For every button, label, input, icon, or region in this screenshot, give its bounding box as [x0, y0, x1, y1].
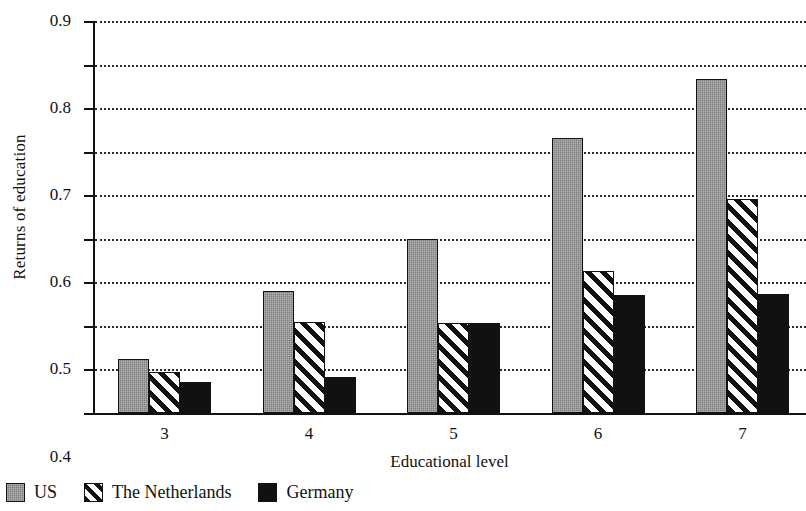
x-axis-line: [84, 413, 806, 415]
bar-group: [696, 21, 789, 413]
bar-us-level-7[interactable]: [696, 79, 727, 413]
legend-item-us[interactable]: US: [6, 482, 57, 503]
y-tick-label: 0.9: [50, 11, 71, 31]
y-axis-line: [93, 21, 95, 413]
bar-nl-level-5[interactable]: [438, 323, 469, 413]
legend-label: US: [34, 482, 57, 503]
legend-label: Germany: [286, 482, 353, 503]
y-tick-label: 0.4: [50, 447, 71, 467]
legend-swatch-nl-icon: [84, 483, 103, 502]
y-tick-mark: 0.8: [84, 65, 95, 67]
y-tick-label: 0.7: [50, 185, 71, 205]
y-tick-mark: 0.3: [84, 282, 95, 284]
bar-nl-level-4[interactable]: [294, 322, 325, 413]
x-tick-label: 3: [160, 424, 169, 444]
chart-container: Returns of education 0.00.10.20.30.40.50…: [0, 0, 806, 511]
legend-label: The Netherlands: [112, 482, 231, 503]
bar-de-level-7[interactable]: [758, 294, 789, 413]
bar-nl-level-7[interactable]: [727, 199, 758, 413]
legend-item-nl[interactable]: The Netherlands: [84, 482, 231, 503]
y-tick-mark: 0.9: [84, 21, 95, 23]
y-tick-mark: 0.6: [84, 152, 95, 154]
y-tick-label: 0.5: [50, 359, 71, 379]
y-tick-mark: 0.7: [84, 108, 95, 110]
y-tick-mark: 0.4: [84, 239, 95, 241]
bar-nl-level-3[interactable]: [149, 372, 180, 413]
y-tick-mark: 0.2: [84, 326, 95, 328]
y-axis-title: Returns of education: [0, 0, 40, 414]
bar-group: [118, 21, 211, 413]
x-tick-label: 5: [449, 424, 458, 444]
x-axis-title: Educational level: [93, 452, 806, 472]
x-tick-label: 4: [305, 424, 314, 444]
bar-nl-level-6[interactable]: [583, 271, 614, 413]
bar-us-level-4[interactable]: [263, 291, 294, 413]
bar-group: [263, 21, 356, 413]
bar-de-level-6[interactable]: [614, 295, 645, 413]
chart-legend: USThe NetherlandsGermany: [6, 482, 380, 503]
bar-de-level-3[interactable]: [180, 382, 211, 413]
x-tick-label: 7: [738, 424, 747, 444]
y-axis-title-label: Returns of education: [10, 134, 30, 280]
y-tick-mark: 0.5: [84, 195, 95, 197]
bar-us-level-3[interactable]: [118, 359, 149, 413]
bar-us-level-6[interactable]: [552, 138, 583, 413]
x-tick-label: 6: [594, 424, 603, 444]
bar-de-level-5[interactable]: [469, 323, 500, 413]
y-tick-mark: 0.0: [84, 413, 95, 415]
y-tick-label: 0.6: [50, 272, 71, 292]
legend-swatch-us-icon: [6, 483, 25, 502]
legend-item-de[interactable]: Germany: [258, 482, 353, 503]
y-tick-mark: 0.1: [84, 369, 95, 371]
bar-group: [407, 21, 500, 413]
bar-group: [552, 21, 645, 413]
bar-us-level-5[interactable]: [407, 239, 438, 413]
plot-area: 0.00.10.20.30.40.50.60.70.80.9: [93, 21, 806, 413]
bar-de-level-4[interactable]: [325, 377, 356, 413]
legend-swatch-de-icon: [258, 483, 277, 502]
y-tick-label: 0.8: [50, 98, 71, 118]
